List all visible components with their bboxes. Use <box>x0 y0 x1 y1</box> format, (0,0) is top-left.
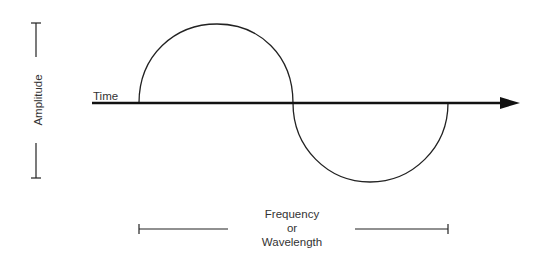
lower-arc <box>293 103 448 182</box>
arrow-head-icon <box>500 97 520 109</box>
frequency-label-line2: or <box>232 221 352 235</box>
frequency-label-line3: Wavelength <box>232 235 352 249</box>
time-label: Time <box>93 89 118 103</box>
frequency-label-line1: Frequency <box>232 207 352 221</box>
amplitude-label: Amplitude <box>31 74 45 125</box>
frequency-label: Frequency or Wavelength <box>232 207 352 249</box>
upper-arc <box>139 24 293 103</box>
